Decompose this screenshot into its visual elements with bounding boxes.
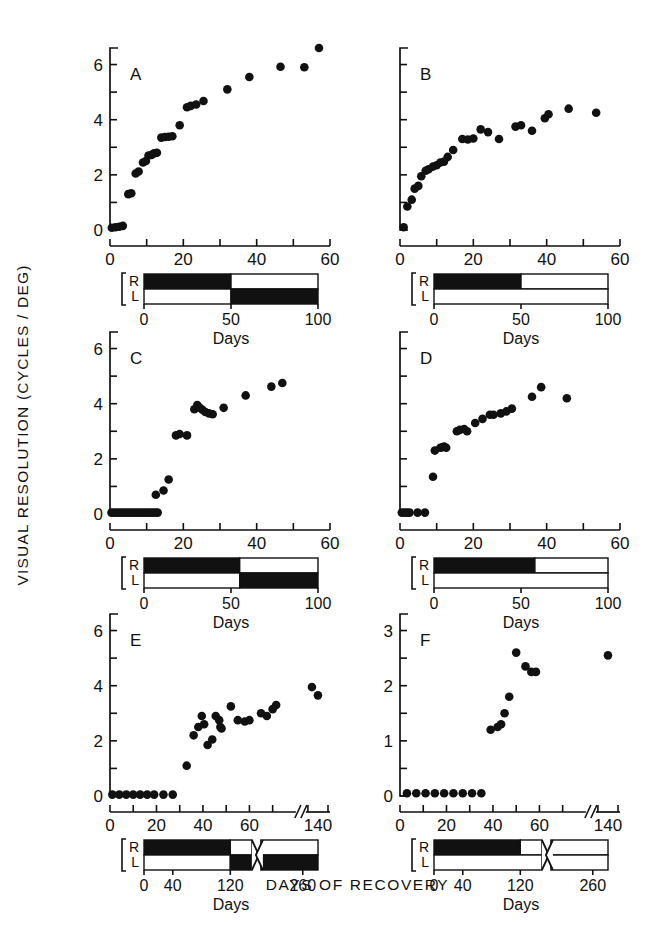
x-tick-label: 0: [395, 250, 404, 269]
x-tick-label: 60: [321, 250, 340, 269]
data-point: [153, 148, 162, 157]
timeline-break-icon: [546, 840, 553, 870]
data-point: [183, 431, 192, 440]
timeline-tick-label: 0: [430, 877, 439, 894]
timeline-segment-r-black: [434, 840, 520, 855]
data-point: [134, 167, 143, 176]
data-point: [199, 97, 208, 106]
x-tick-label: 40: [537, 534, 556, 553]
panel-a-svg: 02460204060ARL050100Days: [58, 34, 348, 324]
timeline-tick-label: 40: [164, 877, 182, 894]
y-tick-label: 6: [94, 340, 103, 359]
data-point: [308, 683, 317, 692]
panel-c-svg: 02460204060CRL050100Days: [58, 318, 348, 608]
data-point: [442, 444, 451, 453]
timeline-bar-e: RL040120260Days: [122, 839, 318, 913]
data-point: [175, 121, 184, 130]
timeline-axis-title: Days: [503, 896, 539, 913]
panel-label-e: E: [130, 631, 141, 650]
data-point: [604, 651, 613, 660]
y-tick-label: 2: [384, 677, 393, 696]
data-point: [476, 125, 485, 134]
timeline-bracket: [122, 839, 126, 871]
data-point: [505, 692, 514, 701]
data-point: [407, 195, 416, 204]
data-point: [175, 430, 184, 439]
data-point: [484, 128, 493, 137]
panel-e: 02460204060140ERL040120260Days: [58, 600, 348, 890]
timeline-segment-r-black: [144, 274, 231, 289]
timeline-tick-label: 260: [579, 877, 606, 894]
data-point: [458, 789, 467, 798]
data-point: [471, 419, 480, 428]
data-point: [468, 789, 477, 798]
data-point-group-c: [107, 379, 286, 517]
timeline-segment-r-white: [231, 274, 318, 289]
timeline-segment-r-black: [144, 840, 230, 855]
timeline-row-label-r: R: [419, 839, 429, 855]
data-point: [200, 720, 209, 729]
data-point: [429, 472, 438, 481]
data-point: [276, 62, 285, 71]
panel-b-svg: 0204060BRL050100Days: [348, 34, 638, 324]
panel-a: 02460204060ARL050100Days: [58, 34, 348, 324]
data-point: [592, 109, 601, 118]
data-point: [208, 410, 217, 419]
timeline-segment-r-black: [434, 274, 521, 289]
data-point: [469, 134, 478, 143]
panel-e-svg: 02460204060140ERL040120260Days: [58, 600, 348, 890]
data-point: [414, 182, 423, 191]
x-tick-label-resume: 140: [594, 816, 622, 835]
timeline-row-label-r: R: [419, 557, 429, 573]
data-point: [245, 73, 254, 82]
x-tick-label-resume: 140: [304, 816, 332, 835]
y-tick-label: 4: [94, 395, 103, 414]
timeline-segment-l-white: [144, 573, 240, 588]
panel-c: 02460204060CRL050100Days: [58, 318, 348, 608]
timeline-row-label-l: L: [131, 854, 139, 870]
x-tick-label: 60: [611, 250, 630, 269]
data-point: [537, 383, 546, 392]
panel-d-svg: 0204060DRL050100Days: [348, 318, 638, 608]
y-tick-label: 6: [94, 56, 103, 75]
data-point: [477, 789, 486, 798]
x-tick-label: 20: [437, 816, 456, 835]
panel-label-d: D: [420, 349, 432, 368]
y-axis-title-text: VISUAL RESOLUTION (CYCLES / DEG): [14, 264, 32, 585]
x-tick-label: 20: [147, 816, 166, 835]
data-point: [227, 702, 236, 711]
data-point: [182, 761, 191, 770]
timeline-row-label-r: R: [129, 273, 139, 289]
timeline-bracket: [122, 557, 126, 589]
data-point: [478, 415, 487, 424]
data-point-group-e: [108, 683, 322, 799]
data-point: [500, 709, 509, 718]
data-point: [517, 121, 526, 130]
data-point: [512, 648, 521, 657]
x-tick-label: 20: [464, 250, 483, 269]
data-point: [159, 790, 168, 799]
x-tick-label: 0: [395, 534, 404, 553]
panel-label-f: F: [420, 631, 430, 650]
data-point: [208, 735, 217, 744]
data-point: [159, 486, 168, 495]
x-tick-label: 0: [105, 250, 114, 269]
data-point: [497, 720, 506, 729]
data-point: [443, 153, 452, 162]
data-point: [217, 724, 226, 733]
timeline-segment-l-white: [434, 573, 608, 588]
data-point: [528, 126, 537, 135]
x-tick-label: 20: [174, 534, 193, 553]
timeline-tick-label: 40: [454, 877, 472, 894]
y-tick-label: 2: [94, 732, 103, 751]
timeline-segment-r-white: [551, 840, 608, 855]
x-tick-label: 20: [464, 534, 483, 553]
data-point: [164, 475, 173, 484]
y-tick-label: 4: [94, 677, 103, 696]
panel-label-a: A: [130, 65, 142, 84]
timeline-break-icon: [256, 840, 263, 870]
timeline-bracket: [412, 273, 416, 305]
y-tick-label: 0: [384, 787, 393, 806]
timeline-segment-l-white: [144, 855, 230, 870]
x-tick-label: 40: [483, 816, 502, 835]
